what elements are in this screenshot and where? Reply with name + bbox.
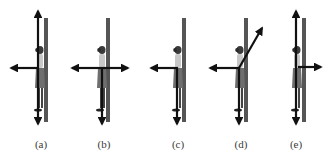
panel-label-b: (b) (98, 138, 111, 150)
panel-label-e: (e) (290, 138, 302, 150)
force-diagram (0, 0, 328, 167)
panel-label-c: (c) (172, 138, 184, 150)
panel-a (11, 11, 48, 124)
panel-c (151, 18, 186, 124)
wall (302, 18, 306, 122)
wall (244, 18, 248, 122)
panel-label-d: (d) (235, 138, 248, 150)
panel-d (210, 18, 262, 124)
panel-b (72, 18, 128, 124)
panel-e (291, 11, 321, 124)
person-figure (34, 46, 45, 112)
panel-label-a: (a) (35, 138, 47, 150)
wall (44, 18, 48, 122)
wall (106, 18, 110, 122)
wall (182, 18, 186, 122)
